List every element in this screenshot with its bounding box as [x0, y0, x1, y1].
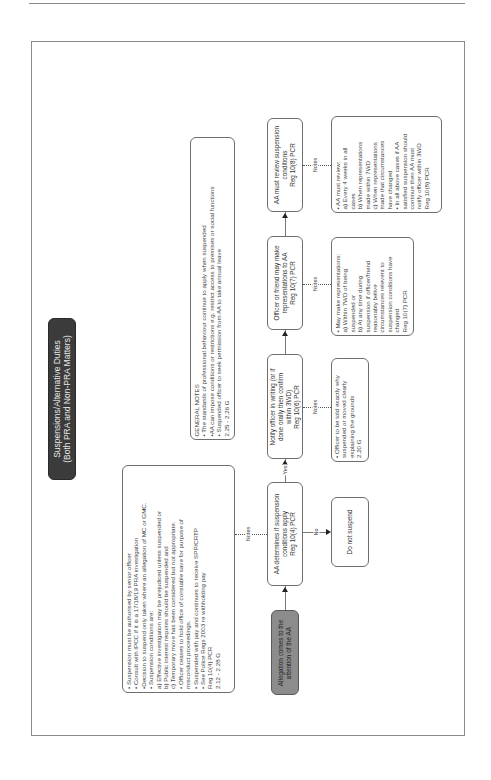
box-text: Do not suspend	[346, 510, 354, 555]
allegation-start-box: Allegation comes to the attention of the…	[271, 610, 299, 695]
note-line: • Suspension must be authorised by senio…	[124, 553, 131, 689]
note-line: cases	[348, 193, 355, 209]
note-line: • See Police Regs 2003 re withholding pa…	[198, 572, 205, 689]
title-line-2: (Both PRA and Non-PRA Matters)	[62, 335, 72, 463]
do-not-suspend-box: Do not suspend	[331, 497, 369, 567]
note-line: suspension conditions have	[385, 256, 392, 332]
general-note-line: • Suspended officer to seek permission f…	[214, 249, 221, 436]
note-line: 2.20 G	[355, 439, 362, 458]
top-rule	[29, 3, 465, 4]
note-line: reasonably belive	[370, 284, 377, 332]
box-text: Notify officer in writing (or if	[269, 368, 277, 445]
note-line: • Officer ceases to hold office of const…	[176, 519, 183, 689]
note-line: changed	[392, 308, 399, 332]
general-notes-heading: GENERAL NOTES	[192, 384, 199, 436]
general-note-line: •AA can impose conditions or restriction…	[207, 186, 214, 436]
title-line-1: Suspensions/Alternative Duties	[52, 340, 62, 458]
box-text: Officer or friend may make	[273, 245, 281, 320]
note-line: made that circumstances	[377, 140, 384, 209]
box-text: Reg 10(6) PCR	[293, 385, 301, 429]
note-line: • AA must review:	[333, 161, 340, 209]
note-line: • Suspension conditions are:	[146, 611, 153, 689]
note-line: Reg 10(7) PCR	[400, 290, 407, 332]
arrow-up-icon	[282, 331, 288, 336]
note-line: Reg 10(4) PCR	[205, 647, 212, 689]
note-line: • Consult with IPCC if it is a 17/18/19 …	[131, 538, 138, 689]
no-label: No	[313, 528, 319, 537]
general-note-line: • The standards of professional behaviou…	[199, 225, 206, 436]
note-line: a) Within 7WD of being	[340, 268, 347, 332]
box-text: conditions	[281, 151, 289, 180]
note-line: have changed	[385, 170, 392, 209]
notify-officer-box: Notify officer in writing (or if done or…	[267, 354, 303, 459]
note-line: •Decision to suspend only taken where an…	[139, 502, 146, 689]
note-line: suspended or	[348, 295, 355, 333]
note-line: b) Public interest requires should be su…	[161, 546, 168, 689]
note-line: suspended or moved clearly	[340, 381, 347, 458]
note-line: a) Every 4 weeks in all	[340, 147, 347, 209]
box-text: representations to AA	[281, 252, 289, 313]
yes-label: Yes	[282, 465, 288, 476]
note-line: • Officer to be told exactly why	[333, 375, 340, 458]
general-note-line: 2.25 - 2.26 G	[222, 400, 229, 436]
note-line: Reg 10(8) PCR	[422, 167, 429, 209]
notes-label: Notes	[312, 399, 318, 416]
note-line: b) When representations	[355, 141, 362, 209]
note-line: misconduct proceedings.	[183, 621, 190, 689]
aa-determines-box: AA determines if suspension conditions a…	[267, 482, 303, 586]
note-line: suspension if officer/friend	[363, 260, 370, 332]
note-line: made within 7WD	[363, 161, 370, 210]
note-line: • In all above cases if AA	[392, 141, 399, 209]
notify-notes-box: • Officer to be told exactly why suspend…	[331, 358, 369, 462]
note-line: 2.12 - 2.28 G	[213, 653, 220, 689]
general-notes-box: GENERAL NOTES • The standards of profess…	[190, 137, 235, 440]
note-line: notify officer within 3WD	[414, 143, 421, 209]
note-line: b) At any time during	[355, 275, 362, 332]
box-text: Reg 10(7) PCR	[289, 261, 297, 305]
box-text: AA determines if suspension	[273, 494, 281, 575]
note-line: • Suspended with pay and continues to re…	[191, 528, 198, 689]
box-text: Reg 10(4) PCR	[289, 512, 297, 556]
box-text: attention of the AA	[285, 626, 293, 678]
note-line: • May make representations:	[333, 253, 340, 332]
note-line: c) Temporary move has been considered bu…	[168, 522, 175, 689]
notes-label: Notes	[312, 276, 318, 293]
representations-notes-box: • May make representations: a) Within 7W…	[331, 237, 414, 336]
arrow-up-icon	[282, 587, 288, 592]
note-line: explaining the grounds	[348, 396, 355, 458]
box-text: done orally then confirm	[277, 372, 285, 440]
note-line: a) Effective investigation may be prejud…	[154, 511, 161, 689]
notes-label: Notes	[312, 157, 318, 174]
box-text: AA must review suspension	[273, 126, 281, 204]
notes-label: Notes	[245, 526, 251, 543]
note-line: satisfied suspension should	[400, 133, 407, 209]
note-line: continue then AA must	[407, 147, 414, 209]
note-line: c) When representations	[370, 142, 377, 209]
box-text: within 3WD)	[285, 389, 293, 423]
diagram-title-box: Suspensions/Alternative Duties (Both PRA…	[48, 318, 76, 480]
box-text: Allegation comes to the	[277, 619, 285, 685]
box-text: conditions apply	[281, 511, 289, 557]
arrow-up-icon	[282, 213, 288, 218]
review-notes-box: • AA must review: a) Every 4 weeks in al…	[331, 116, 442, 213]
aa-review-box: AA must review suspension conditions Reg…	[267, 118, 303, 212]
note-line: circumstances relevent to	[377, 262, 384, 332]
box-text: Reg 10(8) PCR	[289, 143, 297, 187]
suspension-notes-box: • Suspension must be authorised by senio…	[122, 465, 235, 693]
officer-representations-box: Officer or friend may make representatio…	[267, 236, 303, 330]
